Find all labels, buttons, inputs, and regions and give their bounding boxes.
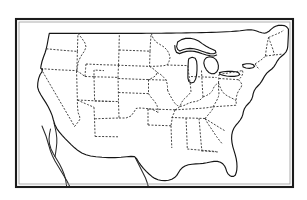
state-border-oh-pa [219, 75, 220, 84]
map-svg-canvas: Outline map of the contiguous United Sta… [0, 0, 307, 200]
lake-michigan [188, 57, 197, 83]
us-outline-map-figure: Black and white line-art map of the lowe… [0, 0, 307, 200]
lake-ontario [243, 64, 255, 69]
